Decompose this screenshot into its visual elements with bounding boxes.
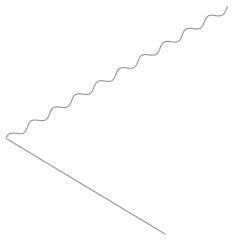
background (0, 0, 236, 243)
line-drawing (0, 0, 236, 243)
